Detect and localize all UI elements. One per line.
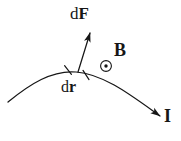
displacement-label-vector: r xyxy=(69,78,76,95)
force-label-differential: d xyxy=(70,4,79,23)
displacement-label: dr xyxy=(61,79,76,95)
circle-dot-icon-dot xyxy=(104,64,107,67)
displacement-label-differential: d xyxy=(61,78,69,95)
force-label: dF xyxy=(70,5,89,22)
field-label: B xyxy=(114,41,126,59)
force-label-vector: F xyxy=(79,4,89,23)
wire-curve xyxy=(8,72,160,116)
diagram-canvas xyxy=(0,0,181,141)
dr-tick-left xyxy=(65,66,72,75)
dr-tick-right xyxy=(83,70,89,79)
force-vector-arrow xyxy=(78,33,90,72)
current-label: I xyxy=(164,107,171,125)
magnetic-force-diagram: dF dr B I xyxy=(0,0,181,141)
